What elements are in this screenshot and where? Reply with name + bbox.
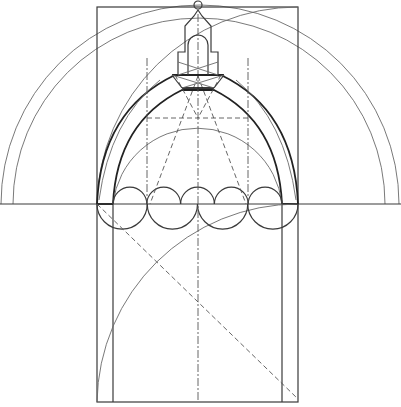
upper-semicircle bbox=[181, 187, 215, 204]
outer-pointed-arch bbox=[97, 75, 298, 204]
diagonal-dashed-line bbox=[97, 204, 298, 399]
lower-semicircle bbox=[97, 204, 147, 229]
dashed-v-right bbox=[198, 75, 221, 118]
quarter-arc-upper bbox=[97, 7, 298, 204]
upper-semicircle bbox=[113, 187, 147, 204]
upper-semicircle bbox=[248, 187, 282, 204]
lower-semicircle bbox=[248, 204, 298, 229]
upper-semicircle bbox=[214, 187, 248, 204]
large-inner-semicircle bbox=[13, 18, 385, 204]
upper-semicircle-row bbox=[113, 187, 282, 204]
round-inner-arch bbox=[113, 128, 282, 204]
upper-semicircle bbox=[147, 187, 181, 204]
dashed-v-left bbox=[175, 75, 198, 118]
lower-semicircle bbox=[147, 204, 197, 229]
lower-semicircle bbox=[198, 204, 248, 229]
dome-construction-diagram bbox=[0, 0, 401, 407]
lower-semicircle-row bbox=[97, 204, 298, 229]
